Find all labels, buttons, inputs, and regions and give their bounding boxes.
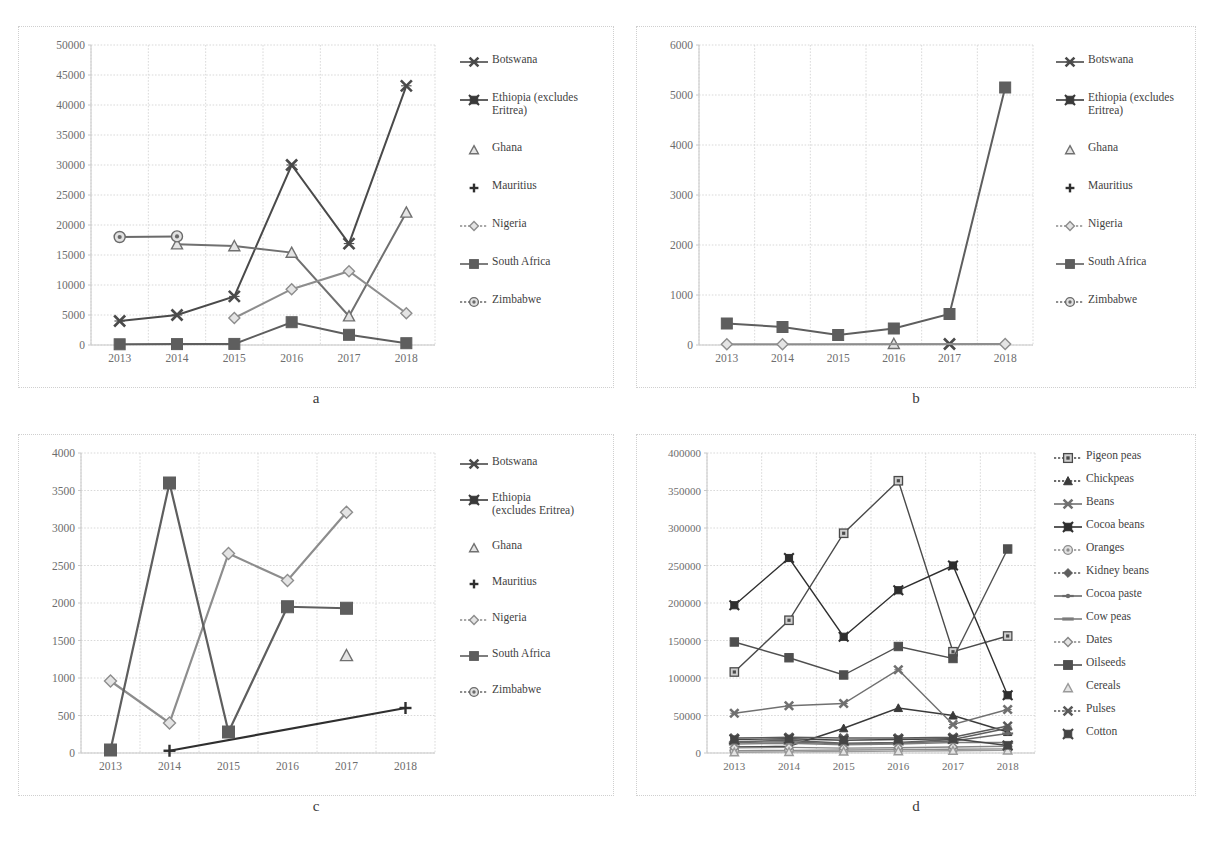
panel-caption-c: c (18, 798, 614, 815)
legend-marker-icon (459, 541, 489, 553)
legend-item[interactable]: Botswana (1055, 53, 1195, 67)
legend-item[interactable]: Nigeria (1055, 217, 1195, 231)
panel-caption-a: a (18, 390, 614, 407)
legend-label: Ghana (1088, 141, 1195, 154)
legend-label: Cocoa paste (1086, 587, 1195, 600)
legend-item[interactable]: Cotton (1053, 725, 1195, 739)
legend-item[interactable]: Cereals (1053, 679, 1195, 693)
x-axis-tick-label: 2014 (158, 760, 181, 772)
legend-marker-icon (459, 55, 489, 67)
series-markers (172, 207, 412, 321)
legend-item[interactable]: Mauritius (459, 575, 609, 589)
x-axis-tick-label: 2017 (338, 352, 361, 364)
x-axis-tick-label: 2015 (833, 760, 856, 772)
legend-label: Botswana (1088, 53, 1195, 66)
y-axis-tick-label: 10000 (56, 279, 85, 291)
legend-marker-icon (459, 93, 489, 105)
legend-item[interactable]: Cocoa beans (1053, 518, 1195, 532)
y-axis-tick-label: 30000 (56, 159, 85, 171)
legend-item[interactable]: Botswana (459, 455, 609, 469)
x-axis-tick-label: 2014 (166, 352, 189, 364)
legend-item[interactable]: Ethiopia (excludes Eritrea) (459, 91, 609, 117)
legend-item[interactable]: South Africa (1055, 255, 1195, 269)
legend-label: Cotton (1086, 725, 1195, 738)
legend-marker-icon (1053, 612, 1083, 624)
x-axis-tick-label: 2018 (394, 760, 417, 772)
legend-marker-icon (1053, 681, 1083, 693)
y-axis-tick-label: 150000 (668, 635, 702, 647)
x-axis-tick-label: 2014 (771, 352, 794, 364)
legend-label: Botswana (492, 455, 609, 468)
legend-label: Botswana (492, 53, 609, 66)
x-axis-tick-label: 2015 (827, 352, 850, 364)
x-axis-tick-label: 2018 (395, 352, 418, 364)
legend-item[interactable]: Dates (1053, 633, 1195, 647)
y-axis-tick-label: 400000 (668, 447, 702, 459)
y-axis-tick-label: 2500 (52, 560, 75, 572)
legend-item[interactable]: South Africa (459, 255, 609, 269)
legend-item[interactable]: Ghana (459, 141, 609, 155)
y-axis-tick-label: 50000 (56, 39, 85, 51)
chart-panel-d: 0500001000001500002000002500003000003500… (636, 434, 1196, 796)
x-axis-tick-label: 2016 (887, 760, 910, 772)
y-axis-tick-label: 1500 (52, 635, 75, 647)
legend-item[interactable]: Nigeria (459, 217, 609, 231)
legend-marker-icon (459, 493, 489, 505)
legend-item[interactable]: Ghana (459, 539, 609, 553)
y-axis-tick-label: 4000 (670, 139, 693, 151)
legend-item[interactable]: Cow peas (1053, 610, 1195, 624)
legend-item[interactable]: Nigeria (459, 611, 609, 625)
y-axis-tick-label: 0 (687, 339, 693, 351)
legend-label: Pulses (1086, 702, 1195, 715)
legend-item[interactable]: Oranges (1053, 541, 1195, 555)
figure-sheet: 0500010000150002000025000300003500040000… (0, 0, 1211, 856)
y-axis-tick-label: 0 (69, 747, 75, 759)
legend-label: Pigeon peas (1086, 449, 1195, 462)
series-markers (105, 477, 353, 756)
legend-item[interactable]: Zimbabwe (1055, 293, 1195, 307)
y-axis-tick-label: 250000 (668, 560, 702, 572)
y-axis-tick-label: 3500 (52, 485, 75, 497)
legend-marker-icon (459, 685, 489, 697)
legend-item[interactable]: Oilseeds (1053, 656, 1195, 670)
x-axis-tick-label: 2015 (217, 760, 240, 772)
legend-item[interactable]: Pigeon peas (1053, 449, 1195, 463)
legend-label: South Africa (1088, 255, 1195, 268)
legend-item[interactable]: Botswana (459, 53, 609, 67)
legend-item[interactable]: Mauritius (1055, 179, 1195, 193)
legend-item[interactable]: Zimbabwe (459, 683, 609, 697)
legend-marker-icon (1055, 181, 1085, 193)
x-axis-tick-label: 2017 (335, 760, 358, 772)
plot-area-d: 0500001000001500002000002500003000003500… (637, 435, 1049, 797)
x-axis-tick-label: 2013 (108, 352, 131, 364)
chart-svg-a: 0500010000150002000025000300003500040000… (19, 27, 449, 389)
chart-svg-b: 0100020003000400050006000201320142015201… (637, 27, 1047, 389)
legend-item[interactable]: South Africa (459, 647, 609, 661)
legend-item[interactable]: Beans (1053, 495, 1195, 509)
x-axis-tick-label: 2016 (276, 760, 299, 772)
y-axis-tick-label: 45000 (56, 69, 85, 81)
legend-item[interactable]: Zimbabwe (459, 293, 609, 307)
legend-label: Beans (1086, 495, 1195, 508)
legend-item[interactable]: Kidney beans (1053, 564, 1195, 578)
legend-item[interactable]: Cocoa paste (1053, 587, 1195, 601)
legend-label: Ethiopia (excludes Eritrea) (492, 91, 609, 117)
legend-label: Dates (1086, 633, 1195, 646)
y-axis-tick-label: 1000 (52, 672, 75, 684)
legend-item[interactable]: Chickpeas (1053, 472, 1195, 486)
legend-item[interactable]: Pulses (1053, 702, 1195, 716)
legend-item[interactable]: Ethiopia (excludes Eritrea) (459, 491, 609, 517)
panel-caption-b: b (636, 390, 1196, 407)
legend-label: Zimbabwe (1088, 293, 1195, 306)
legend-d: Pigeon peasChickpeasBeansCocoa beansOran… (1053, 449, 1195, 748)
legend-item[interactable]: Mauritius (459, 179, 609, 193)
chart-svg-c: 0500100015002000250030003500400020132014… (19, 435, 449, 797)
chart-panel-c: 0500100015002000250030003500400020132014… (18, 434, 614, 796)
legend-item[interactable]: Ghana (1055, 141, 1195, 155)
y-axis-tick-label: 0 (696, 747, 702, 759)
legend-item[interactable]: Ethiopia (excludes Eritrea) (1055, 91, 1195, 117)
legend-label: Cow peas (1086, 610, 1195, 623)
legend-label: Nigeria (1088, 217, 1195, 230)
legend-marker-icon (1055, 257, 1085, 269)
legend-marker-icon (1055, 55, 1085, 67)
